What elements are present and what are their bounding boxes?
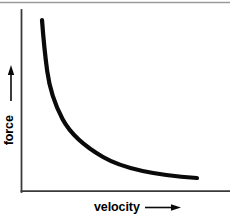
up-arrow-icon bbox=[8, 65, 14, 101]
y-axis-label: force bbox=[3, 115, 16, 145]
force-velocity-curve bbox=[42, 20, 197, 178]
x-axis-label: velocity bbox=[94, 201, 140, 214]
right-arrow-icon bbox=[145, 204, 181, 211]
force-velocity-chart bbox=[0, 0, 230, 218]
figure-container: force velocity bbox=[0, 0, 230, 218]
